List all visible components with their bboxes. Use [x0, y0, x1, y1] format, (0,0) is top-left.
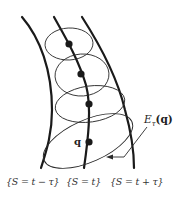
label-s-t-plus-tau: {S = t + τ}	[110, 176, 163, 187]
level-set-diagram: q Eτ(q)	[0, 0, 184, 203]
ellipse-label-e: E	[143, 113, 152, 125]
leader-line	[110, 127, 147, 157]
point-q	[85, 138, 92, 145]
point-q-label: q	[74, 136, 81, 147]
point-2	[77, 70, 84, 77]
curve-s-t	[54, 17, 89, 168]
ellipse-label: Eτ(q)	[143, 113, 173, 128]
label-s-t: {S = t}	[66, 176, 101, 187]
point-3	[85, 100, 92, 107]
ellipse-label-arg: (q)	[156, 113, 173, 125]
label-s-t-minus-tau: {S = t − τ}	[6, 176, 59, 187]
point-1	[65, 40, 72, 47]
